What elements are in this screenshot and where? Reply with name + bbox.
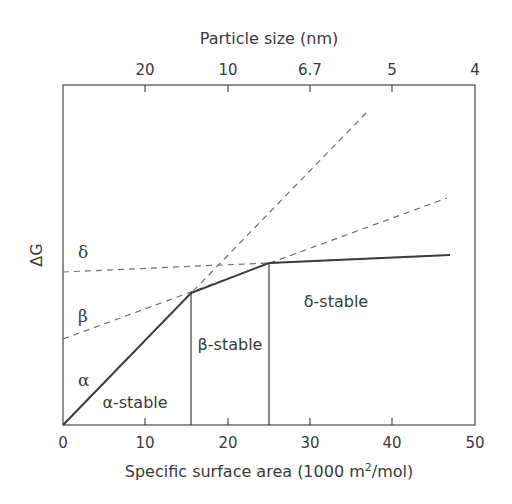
bottom-tick-label: 40 — [382, 434, 401, 452]
top-axis-title: Particle size (nm) — [200, 29, 339, 48]
bottom-tick-label: 0 — [58, 434, 68, 452]
beta-phase-label: β — [78, 306, 88, 326]
bottom-axis-title-suffix: /mol) — [372, 462, 413, 481]
bottom-axis-title: Specific surface area (1000 m2/mol) — [125, 461, 413, 481]
top-axis-ticks — [145, 85, 392, 92]
bottom-tick-label: 20 — [218, 434, 237, 452]
y-axis-title: ΔG — [27, 243, 46, 266]
bottom-tick-label: 50 — [465, 434, 484, 452]
top-tick-label: 20 — [135, 61, 154, 79]
bottom-axis-title-sup: 2 — [365, 461, 372, 474]
bottom-axis-tick-labels: 0 10 20 30 40 50 — [58, 434, 484, 452]
beta-stable-label: β-stable — [198, 335, 263, 354]
alpha-phase-label: α — [78, 370, 90, 390]
bottom-axis-title-prefix: Specific surface area (1000 m — [125, 462, 365, 481]
delta-stable-label: δ-stable — [304, 292, 368, 311]
delta-phase-label: δ — [78, 242, 88, 262]
top-axis-tick-labels: 20 10 6.7 5 4 — [135, 61, 479, 79]
top-tick-label: 5 — [387, 61, 397, 79]
top-tick-label: 6.7 — [298, 61, 322, 79]
bottom-tick-label: 10 — [135, 434, 154, 452]
bottom-tick-label: 30 — [300, 434, 319, 452]
phase-stability-chart: Particle size (nm) 20 10 6.7 5 4 δ β α — [0, 0, 512, 504]
top-tick-label: 4 — [470, 61, 480, 79]
alpha-stable-label: α-stable — [102, 393, 167, 412]
top-tick-label: 10 — [218, 61, 237, 79]
